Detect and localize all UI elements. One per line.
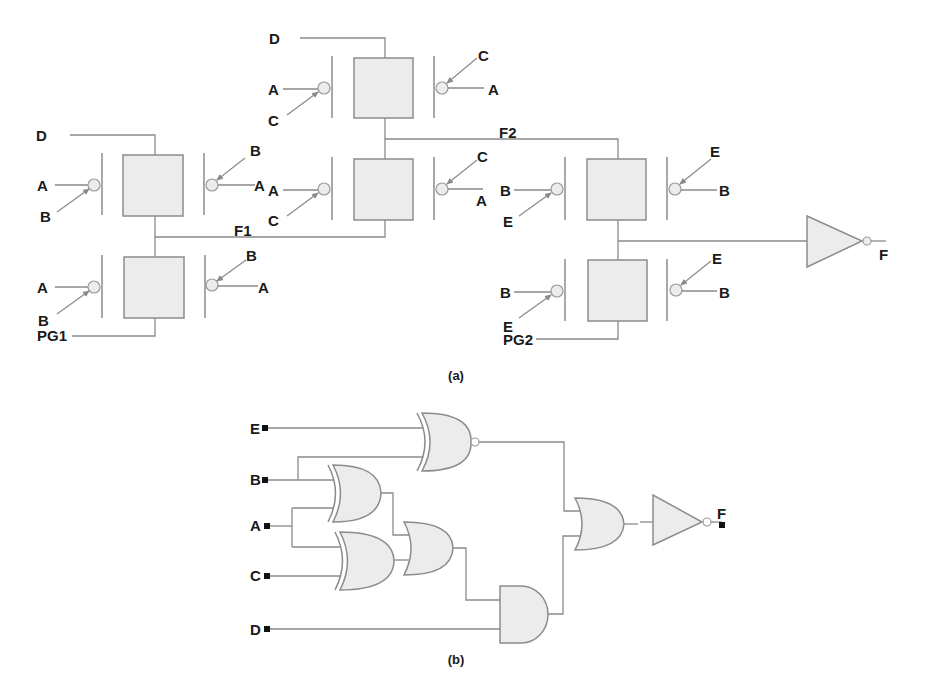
label-e: E [712,250,722,267]
input-bubble [318,183,330,195]
d-wire [70,135,155,155]
label-b: B [246,247,257,264]
inverter-triangle [807,216,862,267]
label-a: A [488,81,499,98]
input-b: B [250,471,261,488]
input-bubble [206,279,218,291]
f2-wire [385,139,618,159]
label-a: A [37,177,48,194]
pass-gate-box [123,155,183,216]
not-gate [653,495,711,545]
label-a: A [268,81,279,98]
and-gate [500,586,548,643]
label-b: B [500,182,511,199]
xor-gate [335,532,394,590]
label-a: A [258,279,269,296]
stage3: B E E B B E E B PG2 [500,143,807,348]
xor-gate [328,465,381,522]
label-f2: F2 [499,124,517,141]
pg1-wire [72,318,155,336]
pass-gate-box [354,159,413,220]
circuit-diagram: D A B B A F1 [0,0,927,695]
label-c: C [268,112,279,129]
input-d: D [250,621,261,638]
input-bubble [436,183,448,195]
label-d: D [269,30,280,47]
label-pg1: PG1 [37,327,67,344]
label-e: E [503,213,513,230]
label-a: A [37,279,48,296]
input-bubble [436,82,448,94]
or-gate [575,498,624,550]
inverter-bubble [863,237,871,245]
input-c: C [250,567,261,584]
pg2-wire [536,321,618,339]
label-b: B [500,284,511,301]
input-bubble [551,285,563,297]
output-inverter: F [807,216,888,267]
input-bubble [206,179,218,191]
caption-b: (b) [448,652,465,667]
pass-gate-box [354,58,413,118]
label-b: B [40,208,51,225]
input-bubble [669,183,681,195]
or-gate [404,522,453,575]
panel-b: E B A C D [250,413,726,667]
input-bubble [88,281,100,293]
output-f: F [717,505,726,522]
input-bubble [318,82,330,94]
xnor-gate [417,413,479,471]
label-a: A [268,182,279,199]
pass-gate-box [587,159,646,220]
label-f1: F1 [234,222,252,239]
input-a: A [250,517,261,534]
caption-a: (a) [448,368,464,383]
panel-a: D A B B A F1 [36,30,888,383]
d-wire [300,38,385,58]
label-b: B [250,142,261,159]
label-c: C [478,47,489,64]
label-f: F [879,246,888,263]
label-e: E [710,143,720,160]
label-b: B [719,182,730,199]
input-bubble [551,183,563,195]
pass-gate-box [588,260,647,321]
label-c: C [477,148,488,165]
label-a: A [254,177,265,194]
label-pg2: PG2 [503,331,533,348]
input-bubble [670,284,682,296]
label-c: C [268,212,279,229]
pass-gate-box [124,257,184,318]
label-d: D [36,127,47,144]
input-bubble [88,179,100,191]
label-b: B [719,284,730,301]
label-a: A [476,192,487,209]
input-e: E [250,420,260,437]
